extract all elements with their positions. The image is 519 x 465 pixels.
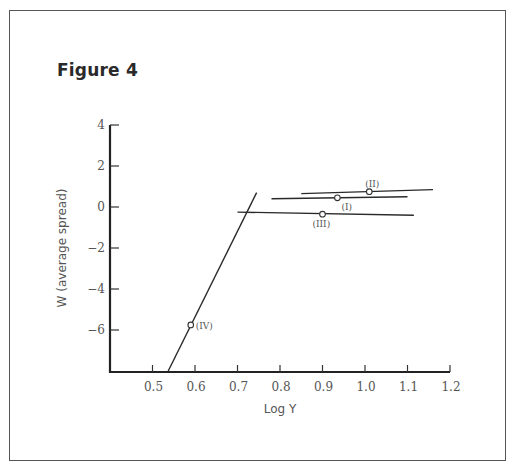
y-axis-label: W (average spread) (55, 189, 69, 308)
data-point-marker (320, 211, 326, 217)
y-tick-label: 4 (97, 118, 105, 132)
x-tick-label: 0.9 (314, 380, 333, 394)
series-iii: (III) (238, 211, 414, 229)
data-point-marker (366, 189, 372, 195)
series-label: (IV) (196, 321, 213, 331)
y-tick-label: −2 (87, 241, 105, 255)
x-tick-label: 0.6 (186, 380, 205, 394)
series-label: (I) (341, 202, 352, 212)
series-iv: (IV) (168, 193, 256, 371)
axes (110, 125, 450, 373)
y-tick-label: 2 (97, 159, 105, 173)
series-group: (I)(II)(III)(IV) (168, 179, 433, 371)
y-tick-label: −6 (87, 323, 105, 337)
series-i: (I) (272, 195, 408, 212)
series-label: (II) (365, 179, 379, 189)
x-tick-label: 1.1 (399, 380, 418, 394)
x-tick-label: 0.7 (229, 380, 248, 394)
y-axis-ticks: 420−2−4−6 (87, 118, 119, 337)
x-axis-label: Log Y (264, 402, 297, 416)
y-tick-label: −4 (87, 282, 105, 296)
series-label: (III) (313, 219, 331, 229)
data-point-marker (188, 322, 194, 328)
x-axis-ticks: 0.50.60.70.80.91.01.11.2 (144, 365, 461, 394)
series-ii: (II) (301, 179, 433, 195)
data-point-marker (335, 195, 341, 201)
y-tick-label: 0 (97, 200, 105, 214)
x-tick-label: 1.0 (356, 380, 375, 394)
x-tick-label: 1.2 (441, 380, 460, 394)
x-tick-label: 0.8 (271, 380, 290, 394)
series-line (168, 193, 256, 371)
chart: 0.50.60.70.80.91.01.11.2 420−2−4−6 (I)(I… (0, 0, 519, 465)
x-tick-label: 0.5 (144, 380, 163, 394)
